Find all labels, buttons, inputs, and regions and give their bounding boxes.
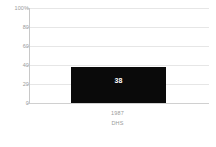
x-axis-label-group: 1987 DHS	[70, 108, 165, 128]
y-tick-label-40: 40	[3, 62, 29, 68]
bar-chart: 100% 80 60 40 20 0 38 1987 DHS	[0, 0, 216, 147]
y-tick-label-20: 20	[3, 81, 29, 87]
x-axis-label-year: 1987	[70, 108, 165, 118]
bar-value-label: 38	[71, 77, 166, 85]
y-tick-label-80: 80	[3, 24, 29, 30]
y-tick-label-100: 100%	[3, 5, 29, 11]
bar-1987[interactable]: 38	[71, 67, 166, 103]
y-tick-label-0: 0	[3, 100, 29, 106]
y-axis: 100% 80 60 40 20 0	[0, 0, 29, 111]
y-tick-label-60: 60	[3, 43, 29, 49]
gridline-40	[30, 65, 209, 66]
gridline-100	[30, 8, 209, 9]
x-axis-label-source: DHS	[70, 118, 165, 128]
gridline-60	[30, 46, 209, 47]
plot-area: 38	[29, 8, 208, 103]
gridline-0	[30, 103, 209, 104]
gridline-80	[30, 27, 209, 28]
